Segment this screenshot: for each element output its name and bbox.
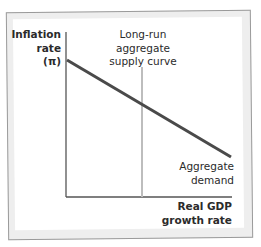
aggregate-demand-label: Aggregate demand — [179, 160, 234, 187]
x-axis-label-line: Real GDP — [162, 200, 232, 214]
y-axis-label: Inflation rate (π) — [11, 28, 61, 69]
lras-label-line: Long-run — [104, 28, 182, 42]
y-axis-label-line: rate — [11, 42, 61, 56]
ad-label-line: Aggregate — [179, 160, 234, 174]
lras-label-line: supply curve — [104, 55, 182, 69]
x-axis-label: Real GDP growth rate — [162, 200, 232, 227]
aggregate-demand-line — [67, 60, 231, 157]
lras-label-line: aggregate — [104, 42, 182, 56]
x-axis-label-line: growth rate — [162, 214, 232, 228]
ad-label-line: demand — [179, 174, 234, 188]
lras-label: Long-run aggregate supply curve — [104, 28, 182, 69]
y-axis-label-line: (π) — [11, 55, 61, 69]
y-axis-label-line: Inflation — [11, 28, 61, 42]
